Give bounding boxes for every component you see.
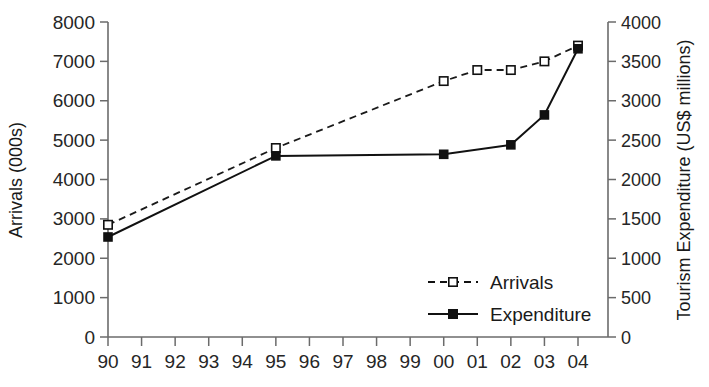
data-point-expenditure-95	[272, 152, 280, 160]
right-tick-label: 3000	[621, 91, 661, 111]
right-tick-label: 1500	[621, 209, 661, 229]
data-point-arrivals-90	[104, 221, 112, 229]
right-tick-label: 1000	[621, 249, 661, 269]
left-axis-ticks: 010002000300040005000600070008000	[53, 12, 108, 348]
data-point-arrivals-02	[507, 66, 515, 74]
tourism-chart: Arrivals (000s) Tourism Expenditure (US$…	[0, 0, 709, 387]
x-tick-label: 92	[165, 351, 186, 372]
chart-legend: ArrivalsExpenditure	[428, 272, 591, 325]
x-tick-label: 98	[366, 351, 387, 372]
legend-label-arrivals: Arrivals	[490, 272, 553, 293]
x-tick-label: 03	[534, 351, 555, 372]
legend-label-expenditure: Expenditure	[490, 304, 591, 325]
x-tick-label: 04	[567, 351, 589, 372]
left-tick-label: 3000	[53, 208, 95, 229]
right-tick-label: 2500	[621, 131, 661, 151]
left-tick-label: 6000	[53, 90, 95, 111]
x-tick-label: 94	[232, 351, 254, 372]
right-tick-label: 0	[621, 328, 631, 348]
series-layer	[104, 41, 582, 241]
left-tick-label: 4000	[53, 169, 95, 190]
x-tick-label: 00	[433, 351, 454, 372]
x-tick-label: 01	[467, 351, 488, 372]
legend-marker-expenditure	[449, 310, 457, 318]
data-point-expenditure-04	[574, 45, 582, 53]
data-point-arrivals-00	[440, 77, 448, 85]
left-tick-label: 7000	[53, 51, 95, 72]
x-tick-label: 96	[299, 351, 320, 372]
right-axis-ticks: 05001000150020002500300035004000	[608, 13, 661, 348]
data-point-expenditure-90	[104, 233, 112, 241]
x-axis-ticks: 909192939495969798990001020304	[97, 337, 589, 372]
x-tick-label: 93	[198, 351, 219, 372]
x-tick-label: 90	[97, 351, 118, 372]
x-tick-label: 02	[500, 351, 521, 372]
data-point-expenditure-02	[507, 141, 515, 149]
data-point-arrivals-01	[473, 66, 481, 74]
data-point-arrivals-95	[272, 144, 280, 152]
data-point-expenditure-03	[540, 111, 548, 119]
left-tick-label: 2000	[53, 248, 95, 269]
right-tick-label: 500	[621, 288, 651, 308]
data-point-arrivals-03	[540, 57, 548, 65]
x-tick-label: 95	[265, 351, 286, 372]
data-point-expenditure-00	[440, 150, 448, 158]
left-tick-label: 0	[84, 327, 95, 348]
left-tick-label: 1000	[53, 287, 95, 308]
right-tick-label: 3500	[621, 52, 661, 72]
left-tick-label: 8000	[53, 12, 95, 33]
right-tick-label: 2000	[621, 170, 661, 190]
legend-marker-arrivals	[449, 278, 457, 286]
right-axis-title: Tourism Expenditure (US$ millions)	[674, 39, 694, 320]
left-axis-title: Arrivals (000s)	[6, 122, 26, 238]
x-tick-label: 91	[131, 351, 152, 372]
right-tick-label: 4000	[621, 13, 661, 33]
x-tick-label: 99	[400, 351, 421, 372]
left-tick-label: 5000	[53, 130, 95, 151]
chart-canvas: Arrivals (000s) Tourism Expenditure (US$…	[0, 0, 709, 387]
x-tick-label: 97	[332, 351, 353, 372]
